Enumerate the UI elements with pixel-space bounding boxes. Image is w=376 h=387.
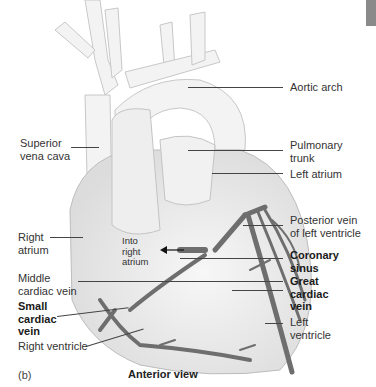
label-line: vein [290, 300, 329, 313]
label-posterior-vein: Posterior veinof left ventricle [290, 214, 361, 239]
leader-aortic-arch [188, 87, 283, 88]
label-line: Pulmonary [290, 139, 343, 152]
label-line: Right ventricle [18, 340, 88, 353]
label-middle-cardiac-vein: Middlecardiac vein [18, 272, 77, 297]
leader-left-ventricle [265, 323, 283, 324]
label-line: vein [18, 325, 57, 338]
label-small-cardiac-vein: Smallcardiacvein [18, 300, 57, 338]
label-into-right-atrium: Intorightatrium [122, 236, 148, 268]
label-line: cardiac [290, 288, 329, 301]
label-line: Left atrium [290, 168, 342, 181]
label-line: Aortic arch [290, 81, 343, 94]
leader-middle-cardiac-vein [78, 281, 283, 282]
label-aortic-arch: Aortic arch [290, 81, 343, 94]
label-line: Into [122, 236, 148, 247]
label-line: Great [290, 275, 329, 288]
leader-pulmonary-trunk [188, 150, 283, 151]
leader-superior-vena-cava [71, 147, 99, 148]
leader-coronary-sinus [180, 258, 283, 259]
label-right-atrium: Rightatrium [18, 231, 49, 256]
label-left-atrium: Left atrium [290, 168, 342, 181]
panel-label: (b) [18, 369, 31, 381]
figure-caption: Anterior view [128, 368, 198, 380]
label-coronary-sinus: Coronarysinus [290, 249, 339, 274]
label-pulmonary-trunk: Pulmonarytrunk [290, 139, 343, 164]
label-line: trunk [290, 152, 343, 165]
label-line: cardiac [18, 313, 57, 326]
leader-posterior-vein [243, 225, 283, 226]
label-line: ventricle [290, 329, 331, 342]
label-line: atrium [122, 257, 148, 268]
label-superior-vena-cava: Superiorvena cava [20, 137, 70, 162]
leader-right-atrium [50, 237, 83, 238]
label-line: Left [290, 316, 331, 329]
label-line: Right [18, 231, 49, 244]
label-line: Coronary [290, 249, 339, 262]
label-great-cardiac-vein: Greatcardiacvein [290, 275, 329, 313]
label-line: vena cava [20, 150, 70, 163]
label-line: Small [18, 300, 57, 313]
label-line: Middle [18, 272, 77, 285]
label-line: of left ventricle [290, 227, 361, 240]
page-edge-tab [366, 0, 376, 26]
leader-left-atrium [212, 173, 283, 174]
label-right-ventricle: Right ventricle [18, 340, 88, 353]
label-left-ventricle: Leftventricle [290, 316, 331, 341]
leader-great-cardiac-vein [232, 290, 283, 291]
heart-veins-diagram: Aortic arch Superiorvena cava Pulmonaryt… [0, 0, 376, 387]
label-line: sinus [290, 262, 339, 275]
label-line: cardiac vein [18, 285, 77, 298]
label-line: Superior [20, 137, 70, 150]
label-line: Posterior vein [290, 214, 361, 227]
label-line: atrium [18, 244, 49, 257]
